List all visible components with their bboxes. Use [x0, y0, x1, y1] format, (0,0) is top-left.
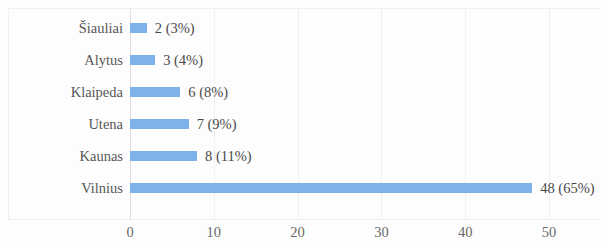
chart-row: Kaunas8 (11%) — [0, 140, 608, 172]
x-tick-label: 50 — [529, 224, 569, 241]
bar-value-label: 2 (3%) — [155, 12, 195, 44]
chart-row: Utena7 (9%) — [0, 108, 608, 140]
bar-value-label: 3 (4%) — [163, 44, 203, 76]
x-tick-label: 20 — [278, 224, 318, 241]
bar — [130, 55, 155, 65]
category-label: Klaipeda — [71, 76, 123, 108]
chart-row: Alytus3 (4%) — [0, 44, 608, 76]
bar-chart: Šiauliai2 (3%)Alytus3 (4%)Klaipeda6 (8%)… — [0, 0, 608, 246]
bar-value-label: 6 (8%) — [188, 76, 228, 108]
bar — [130, 23, 147, 33]
bar — [130, 119, 189, 129]
category-label: Šiauliai — [79, 12, 123, 44]
bar — [130, 151, 197, 161]
chart-row: Šiauliai2 (3%) — [0, 12, 608, 44]
x-tick-label: 30 — [361, 224, 401, 241]
bar-value-label: 8 (11%) — [205, 140, 252, 172]
bar — [130, 87, 180, 97]
chart-row: Klaipeda6 (8%) — [0, 76, 608, 108]
x-tick-label: 0 — [110, 224, 150, 241]
category-label: Vilnius — [81, 172, 123, 204]
chart-row: Vilnius48 (65%) — [0, 172, 608, 204]
category-label: Utena — [88, 108, 123, 140]
category-label: Alytus — [84, 44, 123, 76]
category-label: Kaunas — [80, 140, 124, 172]
x-tick-label: 10 — [194, 224, 234, 241]
bar-value-label: 7 (9%) — [197, 108, 237, 140]
bar-value-label: 48 (65%) — [540, 172, 594, 204]
x-tick-label: 40 — [445, 224, 485, 241]
bar — [130, 183, 532, 193]
